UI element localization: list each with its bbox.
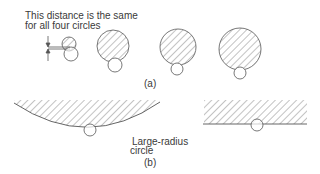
part-b-label: (b) (144, 158, 156, 168)
annotation-line-2: for all four circles (25, 21, 101, 31)
circle-pair-1 (62, 37, 78, 61)
flat-surface (203, 100, 307, 131)
part-b (14, 100, 307, 136)
part-a (46, 28, 261, 79)
large-radius-arc (14, 100, 160, 136)
circle-pair-4 (219, 28, 261, 79)
circle-pair-2 (97, 30, 129, 72)
large-radius-label-line-2: circle (130, 146, 153, 156)
circle-pair-3 (160, 29, 196, 75)
part-a-label: (a) (144, 79, 156, 89)
